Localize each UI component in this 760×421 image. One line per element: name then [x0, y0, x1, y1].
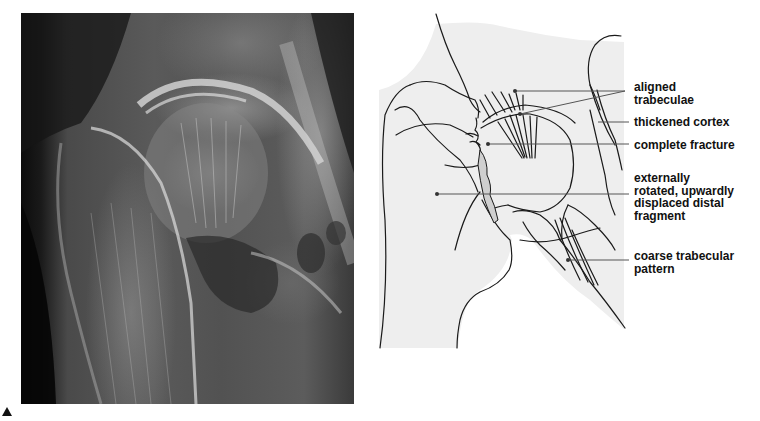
label-thickened-cortex: thickened cortex: [634, 116, 729, 129]
label-complete-fracture: complete fracture: [634, 139, 735, 152]
label-displaced-fragment: externally rotated, upwardly displaced d…: [634, 172, 734, 222]
hip-radiograph: [21, 13, 354, 404]
label-coarse-trabecular-pattern: coarse trabecular pattern: [634, 250, 734, 275]
hip-fracture-diagram: aligned trabeculae thickened cortex comp…: [370, 0, 760, 421]
label-aligned-trabeculae: aligned trabeculae: [634, 81, 694, 106]
radiograph-bone-structures: [21, 13, 354, 404]
triangle-up-icon: [2, 407, 12, 416]
